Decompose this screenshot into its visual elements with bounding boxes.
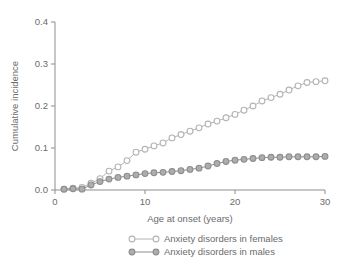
marker-females [223,115,229,121]
marker-males [259,155,265,161]
marker-males [115,175,121,181]
marker-males [178,168,184,174]
marker-males [277,154,283,160]
marker-females [286,87,292,93]
marker-males [232,157,238,163]
marker-females [160,140,166,146]
marker-males [169,169,175,175]
legend-marker-0 [153,236,159,242]
marker-females [241,107,247,113]
marker-females [187,128,193,134]
marker-males [70,186,76,192]
marker-males [214,161,220,167]
marker-males [241,156,247,162]
marker-females [106,168,112,174]
marker-females [178,132,184,138]
legend-label-0: Anxiety disorders in females [164,233,283,244]
marker-males [196,165,202,171]
legend-marker-1 [129,249,135,255]
marker-females [250,103,256,109]
y-axis-title: Cumulative incidence [9,61,20,151]
marker-males [250,156,256,162]
legend-marker-1 [153,249,159,255]
marker-males [79,186,85,192]
y-tick-label: 0.3 [35,58,48,69]
x-tick-label: 20 [230,196,241,207]
y-tick-label: 0.1 [35,142,48,153]
marker-females [232,112,238,118]
legend-label-1: Anxiety disorders in males [164,246,275,257]
marker-males [133,172,139,178]
marker-males [268,154,274,160]
series-line-females [64,81,325,189]
marker-males [97,179,103,185]
marker-males [223,159,229,165]
marker-females [304,80,310,86]
marker-females [214,118,220,124]
marker-females [115,164,121,170]
marker-males [187,167,193,173]
marker-females [295,83,301,89]
y-tick-label: 0.0 [35,184,48,195]
marker-females [196,125,202,131]
marker-females [133,149,139,155]
marker-females [277,91,283,97]
marker-females [268,95,274,101]
marker-males [151,170,157,176]
marker-males [61,186,67,192]
marker-males [106,176,112,182]
x-tick-label: 0 [52,196,57,207]
marker-males [322,154,328,160]
marker-females [205,121,211,127]
marker-males [88,182,94,188]
marker-males [160,169,166,175]
x-tick-label: 10 [140,196,151,207]
marker-females [313,79,319,85]
legend-marker-0 [129,236,135,242]
marker-males [124,173,130,179]
chart-canvas: 0.00.10.20.30.40102030Age at onset (year… [0,0,345,268]
marker-males [295,154,301,160]
marker-females [322,78,328,84]
marker-males [313,154,319,160]
marker-males [304,154,310,160]
marker-males [205,163,211,169]
marker-males [286,154,292,160]
marker-females [259,98,265,104]
marker-females [142,146,148,152]
cumulative-incidence-chart: 0.00.10.20.30.40102030Age at onset (year… [0,0,345,268]
y-tick-label: 0.4 [35,16,48,27]
marker-females [151,143,157,149]
x-tick-label: 30 [320,196,331,207]
series-line-males [64,156,325,189]
x-axis-title: Age at onset (years) [147,213,233,224]
y-tick-label: 0.2 [35,100,48,111]
marker-females [124,158,130,164]
marker-females [169,135,175,141]
marker-males [142,171,148,177]
